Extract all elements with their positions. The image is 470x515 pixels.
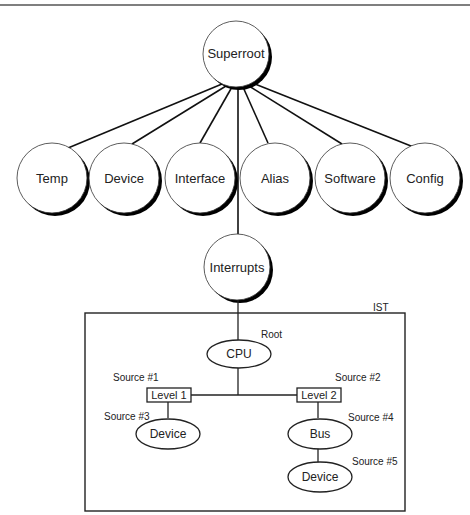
svg-text:Software: Software [324, 171, 375, 186]
svg-text:Level 2: Level 2 [301, 389, 336, 401]
interrupts-node: Interrupts [204, 234, 273, 303]
svg-text:Level 1: Level 1 [151, 389, 186, 401]
child-node-device: Device [89, 143, 162, 216]
level2-node: Level 2 Source #2 [297, 372, 381, 402]
child-node-temp: Temp [17, 143, 90, 216]
device-left-node: Device Source #3 [104, 411, 200, 449]
svg-text:Device: Device [104, 171, 144, 186]
level1-node: Level 1 Source #1 [113, 372, 191, 402]
svg-text:Config: Config [406, 171, 444, 186]
ist-box: IST [85, 302, 405, 511]
root-label: Root [261, 329, 282, 340]
source5-label: Source #5 [352, 456, 398, 467]
svg-text:Interrupts: Interrupts [210, 260, 265, 275]
svg-text:Interface: Interface [175, 171, 226, 186]
child-node-software: Software [315, 143, 388, 216]
superroot-label: Superroot [207, 46, 264, 61]
svg-text:CPU: CPU [226, 347, 251, 361]
child-node-config: Config [390, 143, 463, 216]
svg-text:Device: Device [302, 470, 339, 484]
device-right-node: Device Source #5 [288, 456, 398, 492]
child-node-alias: Alias [240, 143, 313, 216]
svg-text:Temp: Temp [36, 171, 68, 186]
bus-node: Bus Source #4 [288, 412, 394, 449]
source2-label: Source #2 [335, 372, 381, 383]
source4-label: Source #4 [348, 412, 394, 423]
child-node-interface: Interface [165, 143, 238, 216]
svg-text:Bus: Bus [310, 427, 331, 441]
device-tree-diagram: Superroot Temp Device Interface Alias So… [0, 0, 470, 515]
ist-label: IST [373, 302, 389, 313]
svg-text:Device: Device [150, 427, 187, 441]
superroot-node: Superroot [203, 21, 272, 90]
cpu-node: CPU Root [207, 329, 282, 368]
source1-label: Source #1 [113, 372, 159, 383]
source3-label: Source #3 [104, 411, 150, 422]
svg-text:Alias: Alias [261, 171, 290, 186]
